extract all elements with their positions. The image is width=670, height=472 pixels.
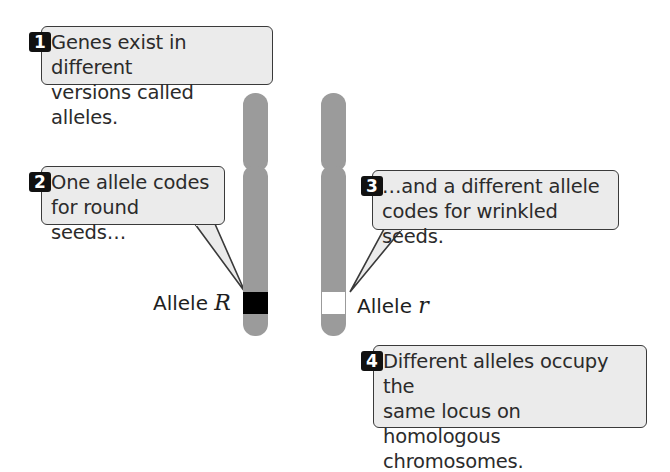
callout-3-number-badge: 3	[361, 176, 383, 196]
allele-R-label-prefix: Allele	[153, 291, 208, 315]
callout-1-line-1: Genes exist in different	[51, 30, 264, 80]
allele-r-band	[321, 292, 346, 314]
callout-2-line-2: for round seeds…	[51, 195, 216, 245]
callout-1: Genes exist in different versions called…	[41, 26, 273, 85]
callout-4-line-3: chromosomes.	[383, 449, 638, 472]
chromosome-2	[321, 93, 346, 336]
callout-1-line-2: versions called alleles.	[51, 80, 264, 130]
callout-3-line-2: codes for wrinkled seeds.	[382, 199, 610, 249]
allele-r-symbol: r	[418, 293, 429, 318]
allele-R-symbol: R	[214, 290, 231, 315]
chromosome-1	[243, 93, 268, 336]
callout-2-line-1: One allele codes	[51, 170, 216, 195]
allele-R-band	[243, 292, 268, 314]
callout-3-line-1: …and a different allele	[382, 174, 610, 199]
callout-3: …and a different allele codes for wrinkl…	[372, 170, 619, 230]
callout-1-number-badge: 1	[29, 32, 51, 52]
callout-4-number-badge: 4	[361, 351, 383, 371]
callout-4-line-1: Different alleles occupy the	[383, 349, 638, 399]
allele-R-label: Allele R	[153, 290, 231, 315]
allele-r-label-prefix: Allele	[357, 294, 412, 318]
callout-4: Different alleles occupy the same locus …	[373, 345, 647, 428]
allele-r-label: Allele r	[357, 293, 429, 318]
callout-2: One allele codes for round seeds…	[41, 166, 225, 225]
callout-4-line-2: same locus on homologous	[383, 399, 638, 449]
chromosome-1-short-arm	[243, 93, 268, 171]
callout-2-number-badge: 2	[29, 172, 51, 192]
chromosome-2-short-arm	[321, 93, 346, 171]
